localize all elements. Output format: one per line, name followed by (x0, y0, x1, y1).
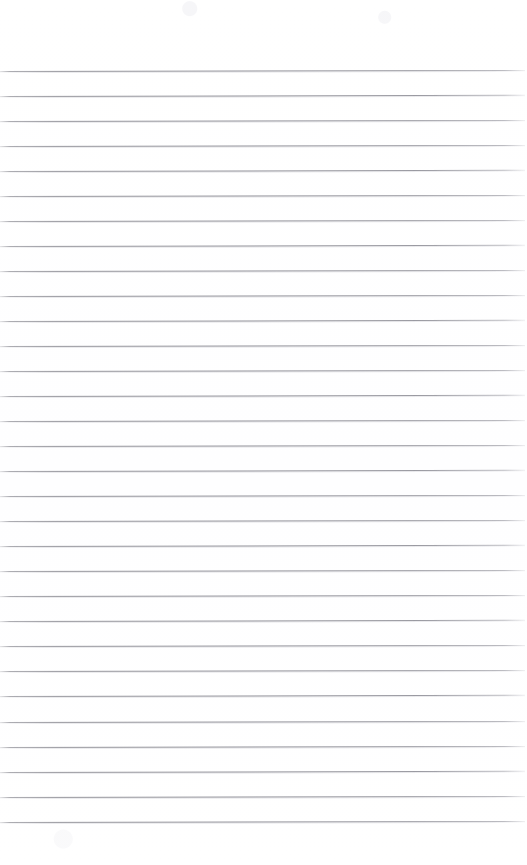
ruled-line (0, 70, 525, 72)
ruled-line (0, 695, 525, 697)
ruled-line (0, 220, 525, 222)
ruled-line (0, 721, 525, 723)
ruled-line (0, 620, 525, 622)
ruled-line (0, 570, 525, 572)
ruled-line (0, 145, 525, 147)
ruled-line (0, 545, 525, 547)
ruled-line (0, 245, 525, 247)
ruled-line (0, 520, 525, 522)
ruled-line (0, 370, 525, 372)
ruled-line (0, 120, 525, 122)
ruled-line (0, 195, 525, 197)
ruled-line (0, 445, 525, 447)
ruled-line (0, 746, 525, 748)
ruled-line (0, 796, 525, 798)
ruled-line (0, 771, 525, 773)
ruled-line (0, 470, 525, 472)
ruled-line (0, 395, 525, 397)
ruled-lines-group (0, 0, 527, 865)
ruled-line (0, 670, 525, 672)
ruled-line (0, 170, 525, 172)
ruled-line (0, 270, 525, 272)
ruled-line (0, 295, 525, 297)
ruled-line (0, 420, 525, 422)
ruled-line (0, 645, 525, 647)
ruled-line (0, 821, 525, 823)
lined-paper-page (0, 0, 527, 865)
ruled-line (0, 345, 525, 347)
ruled-line (0, 495, 525, 497)
ruled-line (0, 595, 525, 597)
ruled-line (0, 320, 525, 322)
ruled-line (0, 95, 525, 97)
